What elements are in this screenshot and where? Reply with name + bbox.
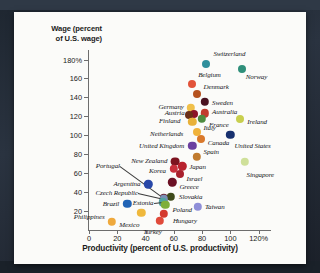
data-point[interactable] [168, 178, 176, 186]
data-point[interactable] [238, 65, 246, 73]
chart-card: Wage (percent of U.S. wage) 180%16014012… [14, 12, 306, 264]
data-point-label: Philippines [14, 213, 105, 221]
y-tick-mark [84, 60, 88, 61]
y-tick-mark [84, 97, 88, 98]
data-point-label: Netherlands [14, 130, 183, 138]
data-point[interactable] [188, 80, 196, 88]
data-point[interactable] [155, 217, 163, 225]
data-point-label: Canada [208, 139, 230, 147]
data-point-label: Argentina [14, 180, 140, 188]
y-tick-label: 140 [22, 93, 82, 102]
data-point[interactable] [161, 201, 169, 209]
y-axis-title-line1: Wage (percent [51, 24, 102, 33]
data-point-label: Portugal [14, 162, 120, 170]
data-point-label: Taiwan [205, 203, 225, 211]
data-point-label: Finland [14, 117, 180, 125]
data-point[interactable] [226, 131, 234, 139]
x-axis-title: Productivity (percent of U.S. productivi… [14, 244, 306, 253]
y-tick-label: 180% [22, 56, 82, 65]
data-point-label: Sweden [212, 99, 233, 107]
data-point-label: Hungary [173, 217, 197, 225]
data-point-label: Switzerland [213, 50, 245, 58]
data-point-label: Norway [246, 73, 268, 81]
data-point-label: United States [234, 142, 270, 150]
data-point-label: Israel [187, 175, 203, 183]
y-tick-mark [84, 211, 88, 212]
data-point-label: Brazil [14, 200, 119, 208]
data-point-label: Japan [189, 163, 206, 171]
data-point[interactable] [176, 170, 184, 178]
data-point[interactable] [198, 115, 206, 123]
data-point-label: Australia [212, 108, 237, 116]
data-point[interactable] [144, 180, 152, 188]
data-point[interactable] [201, 98, 209, 106]
y-tick-mark [84, 154, 88, 155]
data-point[interactable] [202, 60, 210, 68]
data-point-label: Denmark [204, 83, 229, 91]
data-point-label: Belgium [198, 71, 221, 79]
data-point-label: Austria [14, 109, 185, 117]
y-axis-title: Wage (percent of U.S. wage) [36, 24, 102, 43]
scatter-plot: Wage (percent of U.S. wage) 180%16014012… [14, 12, 306, 264]
data-point[interactable] [188, 118, 196, 126]
background-band-top [0, 0, 320, 10]
data-point[interactable] [194, 203, 202, 211]
data-point-label: Turkey [14, 228, 162, 236]
screenshot-canvas: Wage (percent of U.S. wage) 180%16014012… [0, 0, 320, 273]
x-tick-label: 120% [246, 234, 272, 243]
x-tick-label: 60 [161, 234, 187, 243]
data-point-label: United Kingdom [14, 142, 184, 150]
data-point-label: Singapore [247, 171, 275, 179]
x-tick-label: 100 [217, 234, 243, 243]
data-point[interactable] [192, 153, 200, 161]
data-point[interactable] [193, 90, 201, 98]
data-point-label: Ireland [247, 118, 267, 126]
data-point[interactable] [137, 208, 145, 216]
data-point[interactable] [197, 135, 205, 143]
data-point-label: Spain [204, 148, 219, 156]
x-tick-label: 80 [189, 234, 215, 243]
data-point-label: Italy [204, 124, 216, 132]
data-point-label: Slovakia [179, 193, 202, 201]
y-tick-mark [84, 78, 88, 79]
data-point[interactable] [240, 157, 248, 165]
data-point-label: Greece [179, 183, 198, 191]
data-point-label: Poland [172, 206, 192, 214]
data-point[interactable] [236, 115, 244, 123]
y-axis-title-line2: of U.S. wage) [56, 34, 102, 43]
data-point[interactable] [167, 192, 175, 200]
data-point[interactable] [188, 141, 196, 149]
data-point-label: Czech Republic [14, 189, 138, 197]
y-tick-label: 160 [22, 74, 82, 83]
